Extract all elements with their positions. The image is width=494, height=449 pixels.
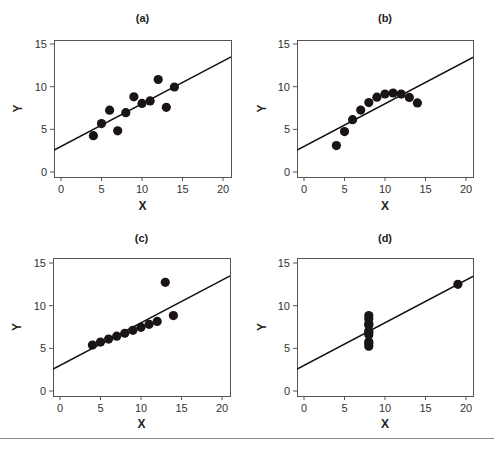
- x-tick-label: 20: [217, 183, 229, 195]
- y-tick-label: 10: [34, 300, 46, 312]
- x-tick-label: 10: [379, 183, 391, 195]
- x-tick-label: 10: [135, 402, 147, 414]
- data-point: [162, 103, 171, 112]
- x-axis-label: X: [137, 417, 145, 431]
- data-point: [413, 98, 422, 107]
- data-point: [372, 93, 381, 102]
- data-point: [169, 311, 178, 320]
- y-tick-label: 5: [284, 123, 290, 135]
- panel-title: (b): [378, 12, 392, 24]
- data-point: [340, 127, 349, 136]
- data-point: [121, 108, 130, 117]
- x-tick-label: 0: [57, 402, 63, 414]
- anscombe-quartet-figure: (a)05101505101520XY(b)05101505101520XY(c…: [0, 0, 494, 449]
- x-axis-label: X: [381, 199, 389, 213]
- data-point: [120, 329, 129, 338]
- y-tick-label: 15: [278, 38, 290, 50]
- data-point: [405, 93, 414, 102]
- data-point: [146, 96, 155, 105]
- x-tick-label: 5: [341, 402, 347, 414]
- x-tick-label: 15: [419, 402, 431, 414]
- panel-title: (d): [378, 232, 392, 244]
- x-axis-label: X: [381, 417, 389, 431]
- data-point: [161, 278, 170, 287]
- y-tick-label: 15: [35, 38, 47, 50]
- y-tick-label: 10: [35, 81, 47, 93]
- y-tick-label: 0: [284, 385, 290, 397]
- x-tick-label: 0: [301, 183, 307, 195]
- data-point: [89, 131, 98, 140]
- y-axis-label: Y: [10, 323, 24, 331]
- data-point: [364, 311, 373, 320]
- data-point: [96, 338, 105, 347]
- panel-d: (d)05101505101520XY: [255, 232, 474, 431]
- y-tick-label: 10: [278, 300, 290, 312]
- x-tick-label: 5: [341, 183, 347, 195]
- data-point: [356, 105, 365, 114]
- x-tick-label: 5: [98, 183, 104, 195]
- panel-title: (c): [135, 232, 149, 244]
- x-tick-label: 15: [175, 402, 187, 414]
- x-tick-label: 5: [97, 402, 103, 414]
- y-tick-label: 5: [284, 342, 290, 354]
- x-tick-label: 0: [301, 402, 307, 414]
- panel-c: (c)05101505101520XY: [10, 232, 231, 431]
- data-point: [332, 141, 341, 150]
- y-axis-label: Y: [11, 104, 25, 112]
- x-tick-label: 20: [460, 402, 472, 414]
- panel-a: (a)05101505101520XY: [11, 12, 232, 213]
- data-point: [154, 75, 163, 84]
- data-point: [128, 326, 137, 335]
- data-point: [104, 335, 113, 344]
- data-point: [170, 82, 179, 91]
- x-tick-label: 10: [136, 183, 148, 195]
- data-point: [97, 119, 106, 128]
- y-tick-label: 15: [278, 257, 290, 269]
- data-point: [389, 88, 398, 97]
- regression-line: [296, 276, 474, 370]
- data-point: [88, 340, 97, 349]
- y-tick-label: 0: [40, 385, 46, 397]
- x-tick-label: 20: [460, 183, 472, 195]
- panel-title: (a): [136, 12, 150, 24]
- data-point: [145, 320, 154, 329]
- y-axis-label: Y: [255, 323, 269, 331]
- plot-frame: [298, 259, 474, 397]
- data-point: [348, 115, 357, 124]
- y-axis-label: Y: [255, 104, 269, 112]
- y-tick-label: 5: [40, 342, 46, 354]
- y-tick-label: 0: [41, 166, 47, 178]
- y-tick-label: 10: [278, 81, 290, 93]
- data-point: [380, 89, 389, 98]
- x-tick-label: 20: [216, 402, 228, 414]
- data-point: [105, 106, 114, 115]
- x-axis-label: X: [138, 199, 146, 213]
- data-point: [137, 99, 146, 108]
- data-point: [113, 126, 122, 135]
- x-tick-label: 15: [419, 183, 431, 195]
- data-point: [364, 98, 373, 107]
- y-tick-label: 15: [34, 257, 46, 269]
- data-point: [129, 92, 138, 101]
- regression-line: [52, 276, 230, 370]
- plot-frame: [55, 41, 232, 178]
- panel-b: (b)05101505101520XY: [255, 12, 474, 213]
- x-tick-label: 15: [176, 183, 188, 195]
- x-tick-label: 10: [379, 402, 391, 414]
- data-point: [112, 332, 121, 341]
- y-tick-label: 0: [284, 166, 290, 178]
- data-point: [453, 280, 462, 289]
- data-point: [397, 89, 406, 98]
- data-point: [136, 323, 145, 332]
- data-point: [153, 317, 162, 326]
- x-tick-label: 0: [58, 183, 64, 195]
- y-tick-label: 5: [41, 123, 47, 135]
- regression-line: [296, 57, 474, 151]
- plot-frame: [298, 41, 474, 178]
